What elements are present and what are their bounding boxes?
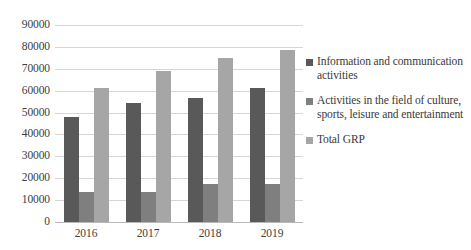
y-axis-tick-label: 10000 <box>0 194 50 206</box>
bar-group <box>179 25 241 222</box>
bar <box>280 50 295 222</box>
legend-item-label: Information and communication activities <box>317 55 466 82</box>
gridline <box>55 222 303 223</box>
bar <box>156 71 171 222</box>
bar <box>203 184 218 222</box>
bar-chart: 9000080000700006000050000400003000020000… <box>0 0 471 250</box>
legend-item[interactable]: Information and communication activities <box>306 55 466 82</box>
legend-item-label: Activities in the field of culture, spor… <box>317 94 466 121</box>
x-axis: 2016201720182019 <box>55 226 303 248</box>
y-axis-tick-label: 70000 <box>0 63 50 75</box>
bar <box>141 192 156 222</box>
y-axis-tick-label: 20000 <box>0 172 50 184</box>
legend-swatch-icon <box>306 137 313 144</box>
y-axis-tick-label: 50000 <box>0 107 50 119</box>
chart-legend: Information and communication activities… <box>306 55 466 159</box>
y-axis-tick-label: 80000 <box>0 41 50 53</box>
y-axis-tick-label: 90000 <box>0 19 50 31</box>
bar-group <box>55 25 117 222</box>
legend-item-label: Total GRP <box>317 133 365 147</box>
legend-swatch-icon <box>306 59 313 66</box>
bar-group <box>241 25 303 222</box>
bar <box>79 192 94 222</box>
x-axis-tick-label: 2016 <box>55 226 117 248</box>
x-axis-tick-label: 2018 <box>179 226 241 248</box>
legend-swatch-icon <box>306 98 313 105</box>
bar <box>126 103 141 222</box>
x-axis-tick-label: 2017 <box>117 226 179 248</box>
y-axis-tick-label: 60000 <box>0 85 50 97</box>
bar <box>265 184 280 222</box>
x-axis-tick-label: 2019 <box>241 226 303 248</box>
plot-area <box>55 25 303 222</box>
bar <box>94 88 109 222</box>
y-axis-tick-label: 0 <box>0 216 50 228</box>
bar <box>64 117 79 222</box>
bar <box>250 88 265 222</box>
bar <box>218 58 233 222</box>
bar-groups <box>55 25 303 222</box>
bar-group <box>117 25 179 222</box>
y-axis-tick-label: 40000 <box>0 129 50 141</box>
bar <box>188 98 203 222</box>
y-axis: 9000080000700006000050000400003000020000… <box>0 25 50 222</box>
legend-item[interactable]: Total GRP <box>306 133 466 147</box>
y-axis-tick-label: 30000 <box>0 151 50 163</box>
legend-item[interactable]: Activities in the field of culture, spor… <box>306 94 466 121</box>
